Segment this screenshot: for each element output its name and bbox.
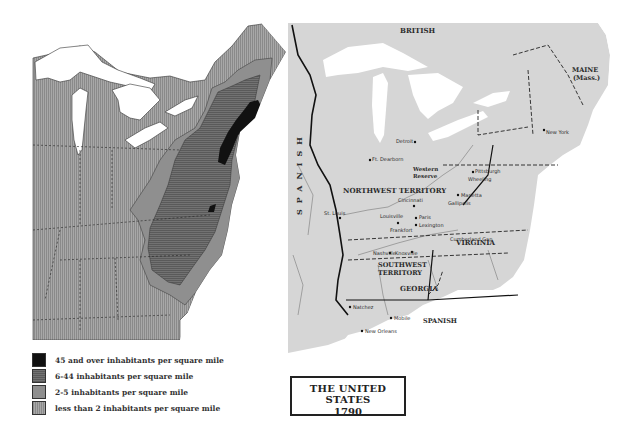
- city-paris: Paris: [419, 214, 431, 220]
- city-cincinnati: Cincinnati: [398, 197, 423, 203]
- label-southwest-territory-2: TERRITORY: [378, 269, 422, 277]
- label-western-reserve: Western: [412, 166, 438, 172]
- city-mobile: Mobile: [394, 315, 410, 321]
- city-lexington: Lexington: [419, 222, 444, 229]
- city-natchez: Natchez: [353, 304, 374, 310]
- legend-item-45-plus: 45 and over inhabitants per square mile: [32, 352, 272, 368]
- city-detroit: Detroit: [396, 138, 413, 144]
- map-title-box: THE UNITED STATES 1790: [290, 376, 406, 416]
- legend-swatch: [32, 385, 46, 399]
- city-new-orleans: New Orleans: [365, 328, 397, 334]
- city-new-york: New York: [546, 129, 569, 135]
- label-spanish-south: SPANISH: [423, 317, 457, 325]
- label-spanish-west: SPANISH: [294, 131, 304, 215]
- legend-item-6-44: 6-44 inhabitants per square mile: [32, 368, 272, 384]
- city-wheeling: Wheeling: [468, 176, 491, 183]
- city-nashville: Nashville: [373, 250, 396, 256]
- legend-swatch: [32, 369, 46, 383]
- map-title: THE UNITED STATES: [292, 383, 404, 405]
- legend-label: 2-5 inhabitants per square mile: [55, 388, 188, 397]
- legend-swatch: [32, 401, 46, 415]
- legend-label: 6-44 inhabitants per square mile: [55, 372, 193, 381]
- political-map-1790: BRITISH MAINE (Mass.) NORTHWEST TERRITOR…: [288, 15, 621, 360]
- label-georgia: GEORGIA: [400, 284, 438, 293]
- legend-swatch: [32, 353, 46, 367]
- map-year: 1790: [292, 406, 404, 417]
- city-cumberland-gap: Cumberland Gap: [450, 236, 492, 243]
- label-northwest-territory: NORTHWEST TERRITORY: [343, 186, 447, 195]
- city-ft-dearborn: Ft. Dearborn: [372, 156, 403, 162]
- population-density-map: [0, 0, 300, 340]
- density-legend: 45 and over inhabitants per square mile …: [32, 352, 272, 416]
- legend-label: 45 and over inhabitants per square mile: [55, 356, 224, 365]
- label-british: BRITISH: [400, 26, 436, 35]
- city-gallipolis: Gallipolis: [448, 200, 471, 207]
- city-st-louis: St. Louis: [324, 210, 346, 216]
- legend-item-2-5: 2-5 inhabitants per square mile: [32, 384, 272, 400]
- legend-label: less than 2 inhabitants per square mile: [55, 404, 220, 413]
- city-pittsburgh: Pittsburgh: [475, 168, 500, 175]
- label-southwest-territory: SOUTHWEST: [378, 261, 427, 269]
- label-maine-mass: (Mass.): [573, 74, 600, 82]
- city-knoxville: Knoxville: [395, 250, 418, 256]
- city-louisville: Louisville: [380, 213, 403, 219]
- label-western-reserve-2: Reserve: [413, 173, 438, 179]
- city-frankfort: Frankfort: [390, 227, 413, 233]
- city-marietta: Marietta: [461, 192, 482, 198]
- label-maine: MAINE: [572, 66, 598, 74]
- legend-item-less-than-2: less than 2 inhabitants per square mile: [32, 400, 272, 416]
